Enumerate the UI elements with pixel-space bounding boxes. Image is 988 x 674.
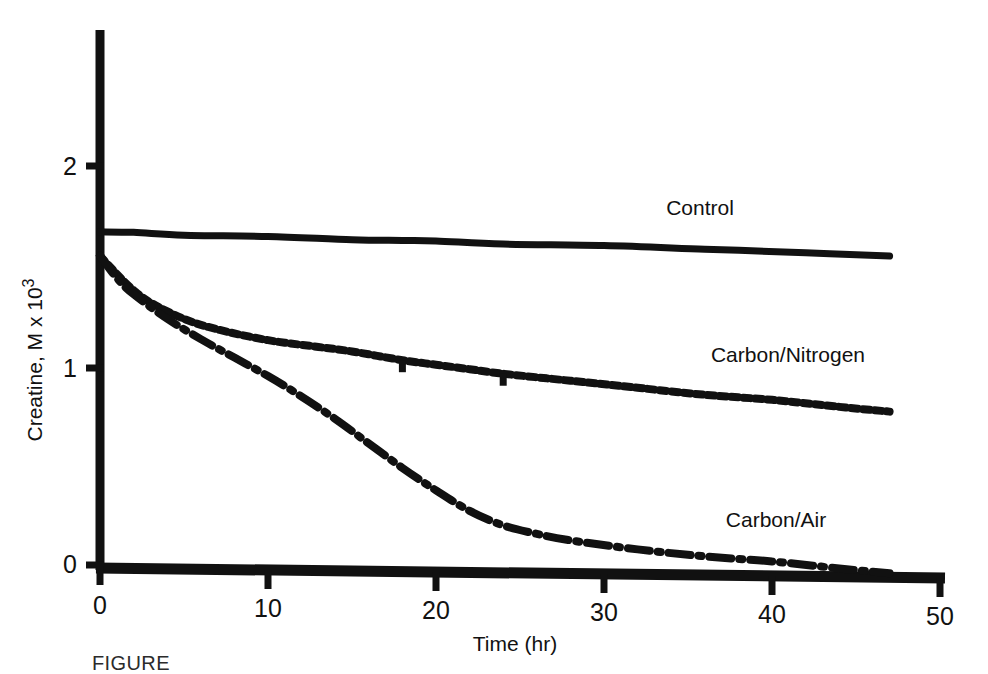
figure-root: 0 1 2 0 10 20 30 40 50 Time (hr) Creatin… [0,0,988,674]
series-line-carbon-nitrogen [100,256,890,412]
x-tick-label-40: 40 [758,600,786,628]
y-tick-label-2: 2 [63,152,77,180]
chart-canvas: 0 1 2 0 10 20 30 40 50 Time (hr) Creatin… [0,0,988,674]
x-tick-label-20: 20 [422,596,450,624]
y-axis-title-text: Creatine, M x 103 [20,278,46,441]
x-tick-label-10: 10 [254,594,282,622]
y-tick-label-0: 0 [63,550,77,578]
series-line-control [100,232,890,256]
y-axis-title-main: Creatine, M x 10 [23,287,46,441]
y-tick-label-1: 1 [63,354,77,382]
y-axis-title-exponent: 3 [20,278,37,287]
x-tick-label-50: 50 [926,602,954,630]
series-label-carbon-air: Carbon/Air [726,508,826,531]
y-axis-title: Creatine, M x 103 [20,278,46,441]
series-label-control: Control [666,196,734,219]
x-tick-label-0: 0 [93,591,107,619]
x-axis-line [96,568,945,578]
figure-caption: FIGURE [92,652,952,674]
series-label-carbon-nitrogen: Carbon/Nitrogen [711,343,865,366]
x-tick-label-30: 30 [590,598,618,626]
